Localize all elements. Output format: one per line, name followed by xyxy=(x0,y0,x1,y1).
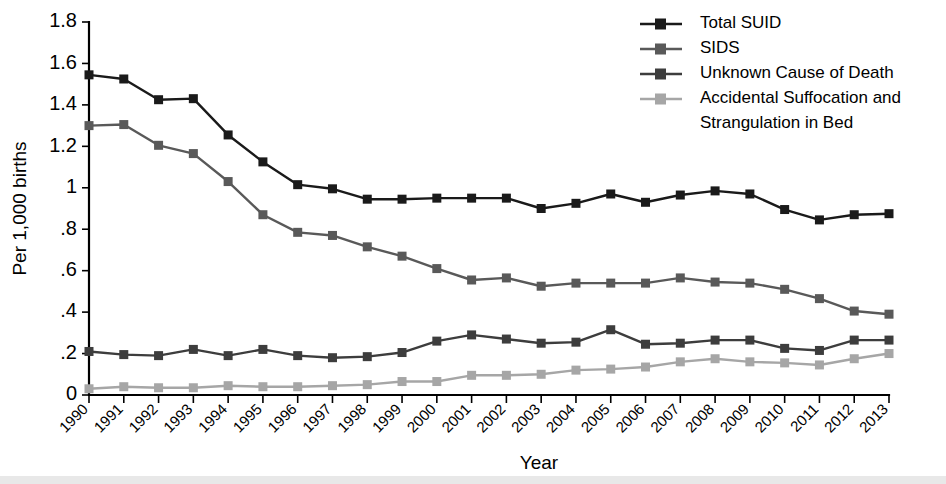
series-2-marker-4 xyxy=(224,177,233,186)
series-2-marker-11 xyxy=(467,275,476,284)
legend-label-4: Accidental Suffocation and xyxy=(700,88,901,107)
series-3-marker-11 xyxy=(467,330,476,339)
series-1-marker-4 xyxy=(224,130,233,139)
series-2-marker-9 xyxy=(398,252,407,261)
series-1-marker-12 xyxy=(502,194,511,203)
series-2-marker-8 xyxy=(363,242,372,251)
series-3-marker-15 xyxy=(606,325,615,334)
series-4-marker-4 xyxy=(224,381,233,390)
y-tick-label-9: 1.8 xyxy=(49,9,77,31)
series-3-marker-16 xyxy=(641,340,650,349)
legend-label-1: Total SUID xyxy=(700,13,781,32)
y-tick-label-5: 1 xyxy=(66,175,77,197)
series-3-marker-1 xyxy=(119,350,128,359)
series-1-marker-16 xyxy=(641,198,650,207)
bottom-edge-band xyxy=(0,476,946,484)
series-2-marker-22 xyxy=(850,307,859,316)
series-4-marker-18 xyxy=(711,354,720,363)
series-3-marker-6 xyxy=(293,351,302,360)
series-4-marker-10 xyxy=(432,377,441,386)
series-3-marker-5 xyxy=(258,345,267,354)
series-2-marker-14 xyxy=(571,279,580,288)
series-1-marker-17 xyxy=(676,191,685,200)
series-3-marker-17 xyxy=(676,339,685,348)
y-tick-label-8: 1.6 xyxy=(49,51,77,73)
series-1-marker-13 xyxy=(537,204,546,213)
series-4-marker-23 xyxy=(885,349,894,358)
series-4-marker-12 xyxy=(502,371,511,380)
series-3-marker-7 xyxy=(328,353,337,362)
suid-rates-line-chart: 0.2.4.6.811.21.41.61.8 19901991199219931… xyxy=(0,0,946,484)
series-4-marker-0 xyxy=(85,384,94,393)
legend-marker-1 xyxy=(655,19,666,30)
series-2-marker-2 xyxy=(154,141,163,150)
y-tick-label-0: 0 xyxy=(66,382,77,404)
series-2-marker-20 xyxy=(780,285,789,294)
series-3-marker-20 xyxy=(780,344,789,353)
series-2-marker-10 xyxy=(432,264,441,273)
series-3-marker-10 xyxy=(432,337,441,346)
y-tick-label-7: 1.4 xyxy=(49,92,77,114)
series-2-marker-17 xyxy=(676,273,685,282)
series-4-marker-14 xyxy=(571,366,580,375)
series-1-marker-7 xyxy=(328,184,337,193)
legend-label-5: Strangulation in Bed xyxy=(700,113,853,132)
legend-label-3: Unknown Cause of Death xyxy=(700,63,894,82)
series-3-marker-3 xyxy=(189,345,198,354)
series-4-marker-20 xyxy=(780,358,789,367)
series-1-marker-3 xyxy=(189,94,198,103)
y-tick-label-6: 1.2 xyxy=(49,134,77,156)
series-2-marker-19 xyxy=(745,279,754,288)
series-1-marker-15 xyxy=(606,189,615,198)
series-4-marker-9 xyxy=(398,377,407,386)
series-4-marker-21 xyxy=(815,360,824,369)
series-2-marker-13 xyxy=(537,282,546,291)
legend-marker-3 xyxy=(655,69,666,80)
y-tick-label-4: .8 xyxy=(60,217,77,239)
y-tick-label-3: .6 xyxy=(60,258,77,280)
series-3-marker-18 xyxy=(711,336,720,345)
series-1-marker-5 xyxy=(258,157,267,166)
series-1-marker-18 xyxy=(711,186,720,195)
series-2-marker-6 xyxy=(293,228,302,237)
series-2-marker-16 xyxy=(641,279,650,288)
series-3-marker-2 xyxy=(154,351,163,360)
series-1-marker-9 xyxy=(398,195,407,204)
series-1-marker-23 xyxy=(885,209,894,218)
series-3-marker-19 xyxy=(745,336,754,345)
y-axis-title: Per 1,000 births xyxy=(9,141,30,275)
legend-marker-2 xyxy=(655,44,666,55)
series-1-marker-1 xyxy=(119,74,128,83)
series-2-marker-1 xyxy=(119,120,128,129)
legend-marker-4 xyxy=(655,94,666,105)
series-2-marker-3 xyxy=(189,149,198,158)
series-1-marker-11 xyxy=(467,194,476,203)
series-2-marker-18 xyxy=(711,278,720,287)
series-1-marker-20 xyxy=(780,205,789,214)
series-4-marker-7 xyxy=(328,381,337,390)
series-1-marker-21 xyxy=(815,215,824,224)
x-axis-title: Year xyxy=(520,452,559,473)
series-2-marker-23 xyxy=(885,310,894,319)
series-4-marker-11 xyxy=(467,371,476,380)
series-2-marker-5 xyxy=(258,210,267,219)
series-4-marker-8 xyxy=(363,380,372,389)
y-tick-label-1: .2 xyxy=(60,341,77,363)
series-4-marker-3 xyxy=(189,383,198,392)
series-3-marker-23 xyxy=(885,336,894,345)
legend-label-2: SIDS xyxy=(700,38,740,57)
y-tick-label-2: .4 xyxy=(60,299,77,321)
series-1-marker-19 xyxy=(745,189,754,198)
series-3-marker-22 xyxy=(850,336,859,345)
series-2-marker-12 xyxy=(502,273,511,282)
chart-container: 0.2.4.6.811.21.41.61.8 19901991199219931… xyxy=(0,0,946,484)
series-4-marker-19 xyxy=(745,357,754,366)
series-3-marker-13 xyxy=(537,339,546,348)
series-3-marker-12 xyxy=(502,335,511,344)
series-3-marker-8 xyxy=(363,352,372,361)
series-4-marker-15 xyxy=(606,365,615,374)
series-1-marker-10 xyxy=(432,194,441,203)
series-4-marker-22 xyxy=(850,354,859,363)
series-2-marker-7 xyxy=(328,231,337,240)
series-1-marker-6 xyxy=(293,180,302,189)
